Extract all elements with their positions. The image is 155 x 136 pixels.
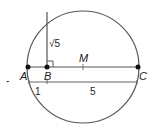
geometry-diagram: A B C M √5 1 5 - (0, 0, 155, 136)
stray-mark: - (6, 75, 9, 86)
label-c: C (139, 70, 147, 82)
label-m: M (79, 52, 89, 64)
point-c (136, 65, 141, 70)
label-b: B (44, 70, 51, 82)
label-a: A (19, 70, 27, 82)
label-ab-length: 1 (35, 86, 41, 97)
label-bc-length: 5 (90, 86, 96, 97)
label-sqrt5: √5 (49, 38, 60, 49)
point-a (26, 65, 31, 70)
point-b (45, 65, 50, 70)
